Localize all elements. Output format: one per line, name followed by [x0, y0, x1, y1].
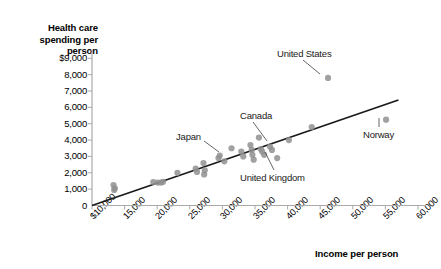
- data-point: [269, 147, 275, 153]
- data-point: [202, 167, 208, 173]
- data-point: [256, 135, 262, 141]
- data-point: [194, 169, 200, 175]
- data-point: [174, 170, 180, 176]
- data-point: [217, 153, 223, 159]
- data-point: [286, 137, 292, 143]
- data-point: [221, 158, 227, 164]
- data-point: [240, 153, 246, 159]
- data-point: [309, 124, 315, 130]
- data-point: [251, 157, 257, 163]
- data-point: [383, 117, 389, 123]
- leader-line: [204, 141, 219, 152]
- leader-line: [265, 152, 274, 170]
- data-point: [200, 160, 206, 166]
- scatter-plot-svg: [0, 0, 441, 269]
- trend-line-segment: [92, 100, 398, 205]
- data-points: [110, 75, 389, 193]
- data-point: [274, 155, 280, 161]
- data-point: [228, 145, 234, 151]
- data-point: [112, 185, 118, 191]
- leader-line: [303, 60, 320, 74]
- trend-line: [92, 100, 398, 205]
- data-point: [325, 75, 331, 81]
- chart-container: Health care spending per person Income p…: [0, 0, 441, 269]
- data-point: [160, 179, 166, 185]
- axes: [88, 50, 426, 210]
